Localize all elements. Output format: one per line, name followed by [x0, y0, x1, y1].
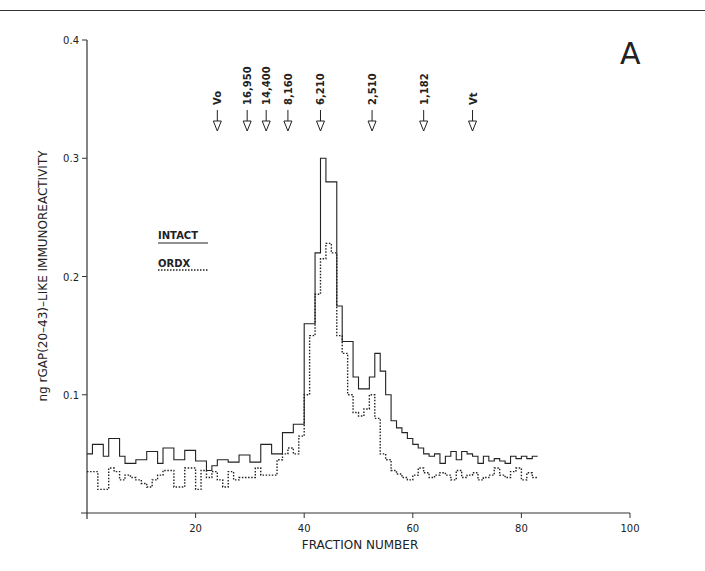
- legend: INTACT ORDX: [158, 230, 208, 270]
- y-tick-label: 0.1: [63, 390, 79, 401]
- arrow-head-icon: [469, 121, 477, 131]
- data-series: [87, 158, 538, 489]
- x-tick-label: 60: [406, 523, 419, 534]
- arrow-head-icon: [284, 121, 292, 131]
- calibration-markers: Vo16,95014,4008,1606,2102,5101,182Vt: [212, 66, 478, 131]
- series-intact: [87, 158, 538, 470]
- legend-label-intact: INTACT: [158, 230, 198, 241]
- series-ordx: [87, 243, 538, 489]
- marker-label: 16,950: [242, 66, 253, 105]
- x-tick-label: 80: [515, 523, 528, 534]
- x-axis-title: FRACTION NUMBER: [302, 538, 419, 552]
- marker-label: 14,400: [261, 66, 272, 105]
- arrow-head-icon: [262, 121, 270, 131]
- marker-label: 2,510: [367, 73, 378, 105]
- y-tick-label: 0.2: [63, 272, 79, 283]
- y-axis-title: ng rGAP(20–43)–LIKE IMMUNOREACTIVITY: [36, 150, 50, 402]
- calibration-marker: 2,510: [367, 73, 378, 131]
- calibration-marker: 14,400: [261, 66, 272, 131]
- arrow-head-icon: [213, 121, 221, 131]
- panel-label: A: [620, 36, 641, 71]
- calibration-marker: 8,160: [283, 73, 294, 131]
- calibration-marker: Vt: [468, 92, 479, 131]
- arrow-head-icon: [243, 121, 251, 131]
- calibration-marker: 6,210: [315, 73, 326, 131]
- legend-label-ordx: ORDX: [158, 258, 191, 269]
- axes: 204060801000.10.20.30.4: [63, 35, 639, 534]
- marker-label: Vt: [468, 92, 479, 105]
- arrow-head-icon: [368, 121, 376, 131]
- calibration-marker: 1,182: [419, 73, 430, 131]
- x-tick-label: 40: [298, 523, 311, 534]
- marker-label: 8,160: [283, 73, 294, 105]
- chart-figure: 204060801000.10.20.30.4 Vo16,95014,4008,…: [0, 0, 705, 571]
- marker-label: 6,210: [315, 73, 326, 105]
- x-tick-label: 20: [189, 523, 202, 534]
- calibration-marker: Vo: [212, 91, 223, 131]
- x-tick-label: 100: [620, 523, 639, 534]
- y-tick-label: 0.4: [63, 35, 79, 46]
- marker-label: 1,182: [419, 73, 430, 105]
- calibration-marker: 16,950: [242, 66, 253, 131]
- arrow-head-icon: [420, 121, 428, 131]
- y-tick-label: 0.3: [63, 153, 79, 164]
- marker-label: Vo: [212, 91, 223, 105]
- arrow-head-icon: [316, 121, 324, 131]
